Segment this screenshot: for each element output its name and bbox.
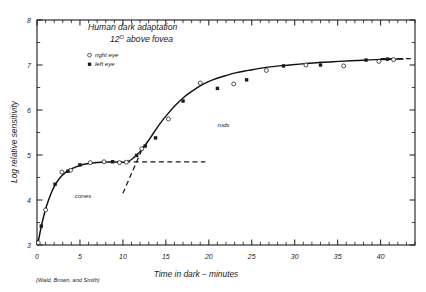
chart-canvas: 0510152025303540 345678 conesrods Human …: [0, 0, 426, 292]
data-point-right-eye: [304, 63, 308, 67]
x-tick-label: 15: [162, 253, 170, 260]
data-point-left-eye: [181, 99, 184, 102]
x-axis-label: Time in dark – minutes: [154, 269, 239, 279]
y-axis-label: Log relative sensitivity: [9, 100, 19, 183]
data-point-left-eye: [154, 136, 157, 139]
credit-line: (Wald, Brown, and Smith): [36, 277, 100, 283]
data-point-left-eye: [216, 87, 219, 90]
title-line-2: 12O above fovea: [110, 34, 173, 44]
legend-label-left-eye: left eye: [95, 60, 115, 67]
data-point-right-eye: [140, 147, 144, 151]
annotation-cones: cones: [75, 192, 92, 199]
data-point-left-eye: [364, 58, 367, 61]
figure-background: [0, 0, 426, 292]
data-point-right-eye: [36, 241, 40, 245]
data-point-left-eye: [282, 64, 285, 67]
data-point-left-eye: [78, 163, 81, 166]
data-point-right-eye: [232, 82, 236, 86]
x-tick-label: 20: [204, 253, 213, 260]
title-degree-value: 12: [110, 34, 120, 44]
data-point-left-eye: [319, 63, 322, 66]
annotation-rods: rods: [217, 121, 229, 128]
data-point-right-eye: [377, 59, 381, 63]
y-tick-label: 6: [27, 107, 31, 114]
data-point-left-eye: [386, 57, 389, 60]
data-point-left-eye: [53, 183, 56, 186]
legend-filled-square-icon: [88, 63, 91, 66]
data-point-right-eye: [124, 160, 128, 164]
data-point-left-eye: [144, 144, 147, 147]
y-tick-label: 5: [27, 152, 31, 159]
title-line-1: Human dark adaptation: [88, 22, 178, 32]
data-point-left-eye: [111, 160, 114, 163]
data-point-left-eye: [66, 170, 69, 173]
data-point-left-eye: [245, 78, 248, 81]
title-line-2-rest: above fovea: [124, 34, 173, 44]
y-tick-label: 3: [27, 242, 31, 249]
data-point-right-eye: [166, 117, 170, 121]
data-point-left-eye: [135, 154, 138, 157]
y-tick-label: 4: [27, 197, 31, 204]
legend-label-right-eye: right eye: [95, 51, 119, 58]
data-point-right-eye: [44, 208, 48, 212]
data-point-right-eye: [60, 170, 64, 174]
x-tick-label: 5: [78, 253, 82, 260]
data-point-right-eye: [342, 64, 346, 68]
dark-adaptation-figure: 0510152025303540 345678 conesrods Human …: [0, 0, 426, 292]
data-point-left-eye: [40, 224, 43, 227]
data-point-right-eye: [117, 161, 121, 165]
x-tick-label: 30: [291, 253, 299, 260]
x-tick-label: 35: [334, 253, 342, 260]
x-tick-label: 25: [247, 253, 256, 260]
y-tick-label: 8: [27, 17, 31, 24]
data-point-right-eye: [88, 161, 92, 165]
data-point-right-eye: [392, 58, 396, 62]
x-tick-label: 10: [119, 253, 127, 260]
data-point-right-eye: [102, 160, 106, 164]
data-point-right-eye: [198, 81, 202, 85]
data-point-right-eye: [264, 68, 268, 72]
x-tick-label: 0: [35, 253, 39, 260]
x-tick-label: 40: [377, 253, 385, 260]
